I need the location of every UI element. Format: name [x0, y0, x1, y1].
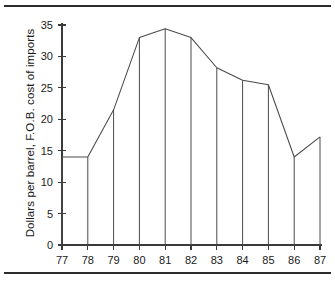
y-tick-label: 20: [41, 113, 53, 125]
y-axis-label: Dollars per barrel, F.O.B. cost of impor…: [24, 8, 36, 258]
x-tick-label: 83: [211, 254, 223, 266]
x-tick-label: 84: [236, 254, 248, 266]
x-tick-label: 80: [133, 254, 145, 266]
y-tick-label: 25: [41, 82, 53, 94]
x-axis-ticks: [62, 245, 320, 250]
x-axis-tick-labels: 7778798081828384858687: [56, 254, 326, 266]
line-chart: 05101520253035 7778798081828384858687: [0, 9, 335, 271]
y-tick-label: 30: [41, 50, 53, 62]
y-tick-label: 5: [47, 208, 53, 220]
y-axis-tick-labels: 05101520253035: [41, 19, 53, 251]
plot-area: Dollars per barrel, F.O.B. cost of impor…: [0, 9, 335, 271]
x-tick-label: 87: [314, 254, 326, 266]
x-tick-label: 78: [82, 254, 94, 266]
x-tick-label: 82: [185, 254, 197, 266]
figure-rule-bottom: [4, 272, 331, 274]
y-tick-label: 10: [41, 176, 53, 188]
x-tick-label: 86: [288, 254, 300, 266]
x-tick-label: 81: [159, 254, 171, 266]
data-drop-lines: [62, 29, 320, 245]
y-tick-label: 35: [41, 19, 53, 31]
y-tick-label: 15: [41, 145, 53, 157]
x-tick-label: 85: [262, 254, 274, 266]
x-tick-label: 79: [107, 254, 119, 266]
y-tick-label: 0: [47, 239, 53, 251]
x-tick-label: 77: [56, 254, 68, 266]
figure-rule-top: [4, 5, 331, 7]
figure-container: Dollars per barrel, F.O.B. cost of impor…: [0, 0, 335, 281]
